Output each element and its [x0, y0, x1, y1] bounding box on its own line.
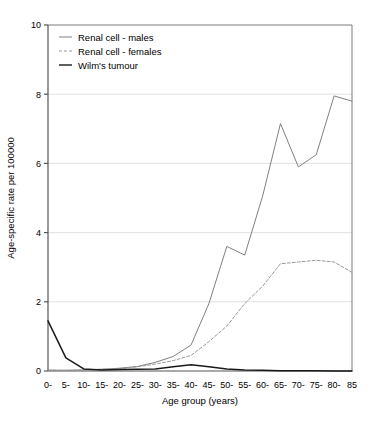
- x-axis-tick-label: 35-: [167, 380, 180, 390]
- x-axis-tick-label: 25-: [131, 380, 144, 390]
- x-axis-tick-label: 70-: [292, 380, 305, 390]
- y-axis-tick-label: 10: [31, 20, 41, 30]
- y-axis-tick-label: 0: [36, 366, 41, 376]
- chart-container: 0246810 0-5-10-15-20-25-30-35-40-45-50-5…: [0, 0, 372, 430]
- x-axis-tick-label: 80-: [328, 380, 341, 390]
- y-axis-tick-label: 8: [36, 90, 41, 100]
- y-axis-tick-label: 2: [36, 297, 41, 307]
- y-axis-tick-label: 6: [36, 159, 41, 169]
- x-axis-tick-label: 65-: [274, 380, 287, 390]
- x-axis-tick-label: 45-: [202, 380, 215, 390]
- x-axis-tick-label: 50-: [220, 380, 233, 390]
- x-axis-tick-label: 5-: [62, 380, 70, 390]
- x-axis-tick-label: 55-: [238, 380, 251, 390]
- x-axis-tick-label: 60-: [256, 380, 269, 390]
- x-axis-tick-label: 15-: [95, 380, 108, 390]
- x-axis-title: Age group (years): [162, 395, 238, 406]
- x-axis-tick-label: 40-: [185, 380, 198, 390]
- x-axis-tick-label: 20-: [113, 380, 126, 390]
- y-axis-tick-label: 4: [36, 228, 41, 238]
- age-specific-rate-line-chart: 0246810 0-5-10-15-20-25-30-35-40-45-50-5…: [0, 0, 372, 430]
- x-axis-tick-label: 75-: [310, 380, 323, 390]
- y-axis-title: Age-specific rate per 100000: [5, 137, 16, 258]
- legend-label-renal-cell-females: Renal cell - females: [78, 46, 162, 57]
- legend-label-wilms-tumour: Wilm's tumour: [78, 60, 138, 71]
- x-axis-tick-label: 0-: [44, 380, 52, 390]
- x-axis-tick-label: 85: [347, 380, 357, 390]
- x-axis-tick-label: 10-: [77, 380, 90, 390]
- x-axis-tick-label: 30-: [149, 380, 162, 390]
- legend-label-renal-cell-males: Renal cell - males: [78, 32, 154, 43]
